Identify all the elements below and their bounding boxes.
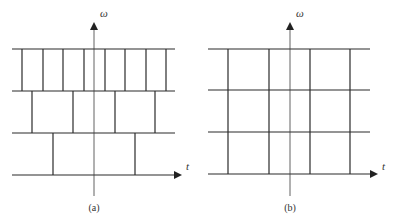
t-label-a: t (186, 160, 190, 172)
t-label-b: t (382, 160, 386, 172)
diagram-b-vertical-lines (228, 49, 350, 174)
caption-a: (a) (88, 202, 99, 214)
caption-b: (b) (284, 202, 296, 214)
diagram-a: ω t (a) (12, 7, 190, 214)
time-frequency-tiling-figure: ω t (a) ω t (b) (0, 0, 394, 223)
diagram-b: ω t (b) (208, 7, 386, 214)
omega-label-b: ω (296, 7, 304, 19)
diagram-a-row2-dividers (32, 91, 155, 133)
diagram-b-horizontal-lines (208, 49, 376, 174)
omega-label-a: ω (100, 7, 108, 19)
